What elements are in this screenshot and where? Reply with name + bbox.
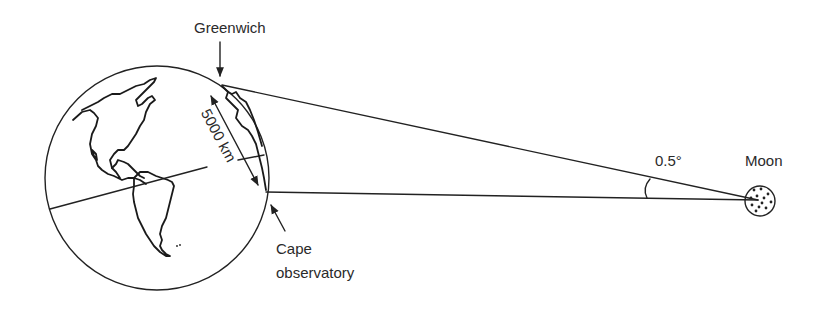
angle-label: 0.5° — [655, 152, 682, 169]
gulf-coast — [112, 160, 144, 178]
falkland-islands — [179, 244, 181, 246]
cape-arrow — [271, 205, 285, 231]
north-america-coastline — [73, 78, 156, 184]
cape-label-line1: Cape — [276, 240, 312, 257]
moon-parallax-diagram: Greenwich 5000 km Cape observatory 0.5° … — [0, 0, 832, 309]
moon-label: Moon — [745, 152, 783, 169]
earth-globe — [45, 66, 269, 290]
sightline-greenwich — [222, 85, 758, 200]
greenwich-label: Greenwich — [194, 19, 266, 36]
equator-line — [50, 167, 207, 209]
earth-outline — [45, 66, 269, 290]
cape-label-line2: observatory — [276, 264, 355, 281]
moon — [745, 186, 775, 216]
angle-arc — [645, 179, 650, 198]
falkland-islands — [176, 245, 178, 247]
sightline-cape — [266, 192, 758, 200]
distance-label: 5000 km — [198, 106, 240, 165]
